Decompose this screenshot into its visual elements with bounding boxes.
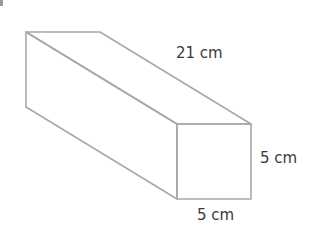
height-label: 5 cm [260, 151, 297, 166]
length-label: 21 cm [176, 46, 223, 61]
width-label: 5 cm [197, 208, 234, 223]
prism-side-face [26, 32, 177, 199]
prism-front-face [177, 124, 251, 199]
rectangular-prism-diagram [0, 0, 310, 241]
